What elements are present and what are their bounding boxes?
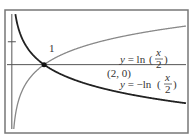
label-ln-num: x: [155, 46, 161, 58]
label-ln-den: 2: [156, 58, 162, 70]
paren-left: (: [157, 78, 161, 91]
label-neg-ln-num: x: [164, 71, 170, 83]
label-ln-prefix: y = ln: [119, 53, 146, 65]
label-neg-ln-den: 2: [165, 83, 171, 95]
plot-frame: [5, 10, 188, 133]
chart: 1 y = ln ( x 2 ) (2, 0) y = −ln ( x 2 ): [0, 0, 191, 136]
paren-right: ): [164, 53, 168, 66]
intersection-point: [42, 62, 47, 67]
label-neg-ln-prefix: y = −ln: [119, 78, 152, 90]
cropped-header: [0, 0, 191, 5]
paren-left: (: [149, 53, 153, 66]
y-tick-label-1: 1: [49, 42, 55, 54]
marks: [42, 62, 47, 67]
paren-right: ): [173, 78, 177, 91]
